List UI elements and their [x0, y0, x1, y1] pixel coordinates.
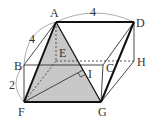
- geometry-diagram: A D B C E H F G I 4 4 2: [0, 0, 153, 124]
- label-i: I: [88, 67, 92, 81]
- label-g: G: [98, 105, 107, 119]
- label-c: C: [106, 61, 114, 75]
- label-a: A: [50, 6, 59, 20]
- dimension-ad: 4: [90, 5, 96, 19]
- label-f: F: [18, 105, 25, 119]
- dimension-bf: 2: [9, 78, 15, 92]
- label-e: E: [59, 46, 66, 60]
- label-b: B: [14, 59, 22, 73]
- label-h: H: [137, 55, 146, 69]
- label-d: D: [136, 16, 145, 30]
- dimension-ab: 4: [29, 32, 35, 46]
